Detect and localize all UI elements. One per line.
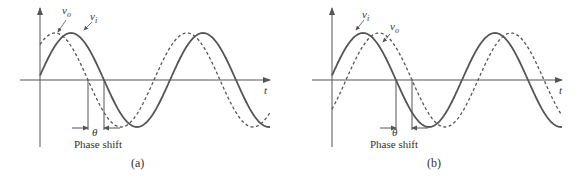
panel-b-theta-label: θ: [392, 126, 397, 138]
phase-shift-figure: [0, 0, 583, 181]
panel-b-phase-shift-text: Phase shift: [370, 138, 418, 150]
panel-a-caption: (a): [131, 156, 144, 171]
panel-b-vi-label: vi: [362, 8, 369, 23]
panel-a: [20, 8, 270, 147]
vo-leader: [58, 20, 66, 32]
panel-b-caption: (b): [427, 156, 441, 171]
panel-b-vo-label: vo: [390, 20, 399, 35]
panel-b: [312, 8, 562, 147]
panel-b-t-label: t: [559, 84, 562, 96]
panel-a-theta-label: θ: [92, 126, 97, 138]
panel-a-vi-label: vi: [90, 10, 97, 25]
panel-a-t-label: t: [264, 84, 267, 96]
panel-a-phase-shift-text: Phase shift: [74, 138, 122, 150]
panel-a-vo-label: vo: [62, 4, 71, 19]
